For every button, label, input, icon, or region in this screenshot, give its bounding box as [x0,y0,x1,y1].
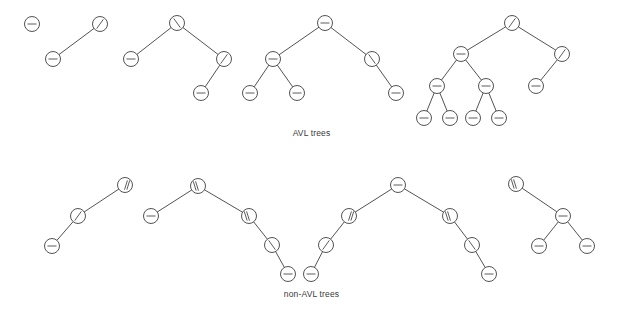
tree-node-dash [290,86,305,101]
tree-edge [137,28,171,55]
avl-tree-diagram: AVL trees non-AVL trees [0,0,623,314]
avl-tree-2 [46,17,108,67]
tree-edge [476,251,485,267]
tree-node-dash [194,86,209,101]
avl-row [25,16,570,126]
tree-edge [84,189,118,212]
tree-edge [314,252,322,268]
tree-node-dash [479,79,494,94]
tree-node-dash [391,178,406,193]
tree-edge [440,93,447,111]
tree-edge [541,60,558,80]
caption-non-avl-trees: non-AVL trees [0,289,623,299]
tree-node-dash [556,209,571,224]
tree-edge [455,222,468,239]
tree-node-slash [555,47,570,62]
tree-edge [183,28,218,55]
tree-node-double-backslash [191,179,206,194]
tree-edge [404,189,443,212]
nonavl-tree-3 [304,178,497,282]
node-circle [242,209,257,224]
tree-edge [355,189,391,212]
tree-node-dash [580,239,595,254]
node-circle [191,179,206,194]
tree-node-dash [417,111,432,126]
tree-node-dash [466,111,481,126]
tree-node-dash [443,111,458,126]
tree-edge [568,222,583,240]
tree-node-dash [124,52,139,67]
node-circle [118,178,133,193]
tree-node-dash [389,86,404,101]
tree-node-dash [482,267,497,282]
nonavl-tree-1-edges [57,189,119,240]
nonavl-tree-2-edges [157,190,284,268]
tree-edge [466,60,482,80]
caption-avl-trees: AVL trees [0,128,623,138]
nonavl-tree-1 [45,178,133,254]
tree-edge [376,65,391,87]
node-circle [443,209,458,224]
tree-edge [205,65,220,87]
avl-tree-4 [243,16,404,101]
tree-edge [331,28,366,55]
tree-edge [442,60,457,80]
tree-node-backslash [465,238,480,253]
tree-node-dash [454,47,469,62]
tree-node-double-backslash [443,209,458,224]
avl-tree-5-edges [427,27,557,111]
nonavl-tree-2 [144,179,296,282]
tree-edge [279,27,319,54]
node-circle [509,177,524,192]
node-circle [342,209,357,224]
tree-edge [331,222,345,239]
tree-node-dash [266,52,281,67]
tree-edge [518,27,555,50]
tree-node-slash [71,209,86,224]
tree-node-dash [281,267,296,282]
tree-edge [476,93,483,111]
nonavl-tree-3-edges [314,189,485,268]
tree-edge [489,93,496,111]
nonavl-tree-4 [509,177,595,254]
tree-node-backslash [170,16,185,31]
tree-node-dash [243,86,258,101]
tree-edge [522,188,557,212]
tree-node-dash [492,111,507,126]
tree-node-slash [319,238,334,253]
tree-node-slash [505,16,520,31]
tree-node-double-backslash [509,177,524,192]
tree-node-dash [304,267,319,282]
tree-edge [157,190,191,212]
tree-node-backslash [265,238,280,253]
tree-edge [427,93,434,111]
tree-node-dash [529,79,544,94]
tree-node-dash [46,52,61,67]
avl-tree-1 [25,17,40,32]
tree-edge [276,252,285,268]
tree-edge [467,27,505,50]
tree-node-dash [318,16,333,31]
avl-tree-3-edges [137,28,220,87]
tree-edge [277,65,292,87]
nonavl-tree-4-edges [522,188,582,240]
tree-node-dash [25,17,40,32]
tree-edge [204,190,242,212]
non-avl-row [45,177,595,282]
tree-node-dash [144,209,159,224]
tree-edge [544,222,559,240]
tree-node-dash [532,239,547,254]
tree-edge [254,222,268,239]
tree-node-slash [217,52,232,67]
tree-edge [57,222,73,241]
avl-tree-5 [417,16,570,126]
avl-tree-2-edges [59,28,94,54]
tree-node-double-backslash [242,209,257,224]
tree-node-double-slash [342,209,357,224]
avl-tree-3 [124,16,232,101]
tree-edge [59,28,94,54]
tree-node-backslash [365,52,380,67]
tree-canvas [0,0,623,314]
tree-node-double-slash [118,178,133,193]
tree-node-slash [93,17,108,32]
